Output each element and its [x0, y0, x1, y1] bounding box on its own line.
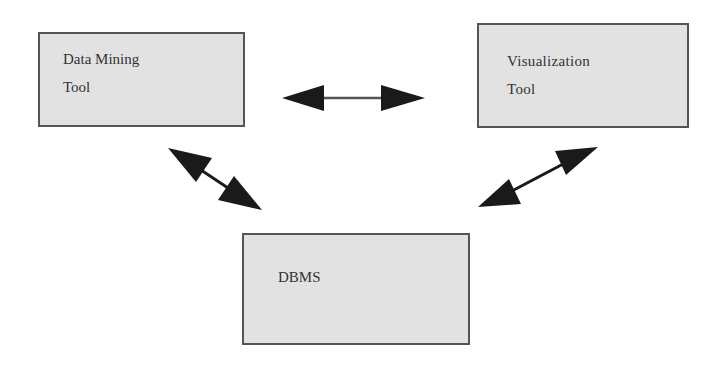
data-mining-tool-label: Data Mining Tool	[63, 45, 139, 101]
dbms-box: DBMS	[242, 233, 470, 345]
visualization-tool-label: Visualization Tool	[507, 47, 590, 103]
bidirectional-arrow-visualization-dbms	[478, 147, 598, 207]
bidirectional-arrow-data-mining-visualization	[282, 85, 425, 111]
dbms-label: DBMS	[278, 263, 321, 291]
visualization-tool-box: Visualization Tool	[477, 23, 689, 128]
diagram-canvas: Data Mining Tool Visualization Tool DBMS	[0, 0, 726, 367]
bidirectional-arrow-data-mining-dbms	[168, 148, 262, 210]
data-mining-tool-box: Data Mining Tool	[38, 32, 245, 127]
